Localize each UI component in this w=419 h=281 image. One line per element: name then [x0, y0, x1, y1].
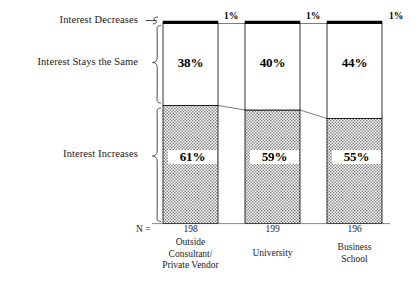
x-category-label-outside-consultant: Outside Consultant/ Private Vendor: [148, 237, 233, 272]
bar-outside-consultant: [163, 21, 218, 224]
value-label-decreases-bar-2: 1%: [306, 11, 320, 21]
sample-size-prefix: N =: [136, 224, 151, 234]
bar-university: [245, 21, 300, 224]
bar-business-school: [327, 21, 382, 224]
sample-size-bar-1: 198: [163, 224, 218, 234]
value-label-same-bar-3: 44%: [327, 55, 382, 71]
axis-label-interest-decreases: Interest Decreases: [60, 14, 138, 25]
value-label-decreases-bar-1: 1%: [224, 11, 238, 21]
axis-label-interest-stays-same: Interest Stays the Same: [37, 56, 138, 67]
x-category-label-university: University: [240, 248, 305, 260]
value-label-decreases-bar-3: 1%: [389, 11, 403, 21]
bar-segment-decreases: [163, 21, 218, 24]
brace-stays-the-same: [153, 26, 161, 104]
value-label-increases-bar-2: 59%: [250, 150, 299, 164]
bar-segment-decreases: [245, 21, 300, 24]
brace-increases: [153, 108, 161, 222]
bar-segment-same: [327, 24, 382, 119]
x-category-label-business-school: Business School: [322, 242, 387, 265]
bar-segment-decreases: [327, 21, 382, 24]
bar-segment-increases: [245, 110, 300, 224]
value-label-same-bar-1: 38%: [163, 55, 218, 71]
bar-segment-increases: [327, 119, 382, 224]
sample-size-bar-2: 199: [245, 224, 300, 234]
value-label-same-bar-2: 40%: [245, 55, 300, 71]
value-label-increases-bar-1: 61%: [168, 150, 217, 164]
sample-size-bar-3: 196: [327, 224, 382, 234]
axis-label-interest-increases: Interest Increases: [63, 148, 138, 159]
bar-segment-increases: [163, 106, 218, 224]
brace-decreases: [146, 17, 158, 24]
value-label-increases-bar-3: 55%: [332, 150, 381, 164]
